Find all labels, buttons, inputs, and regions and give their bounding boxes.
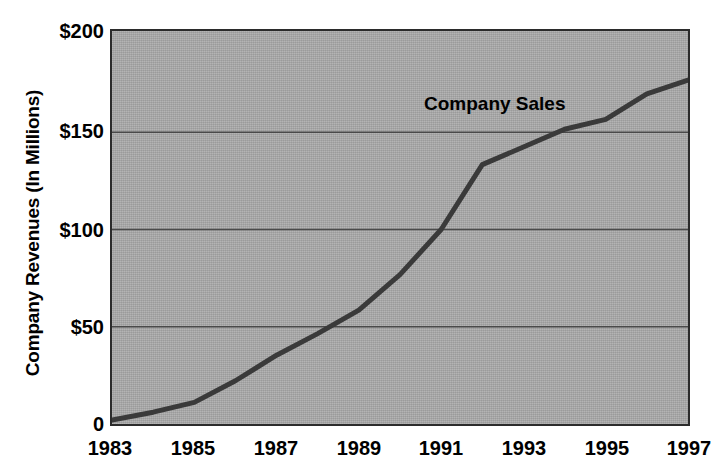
data-series-line <box>112 80 688 420</box>
y-tick-label: $100 <box>26 220 104 240</box>
plot-svg <box>112 31 688 424</box>
series-annotation-label: Company Sales <box>424 93 566 115</box>
line-chart: Company Revenues (In Millions) $200 $150… <box>0 0 716 476</box>
y-tick-label: $150 <box>26 121 104 141</box>
y-tick-label: $200 <box>26 21 104 41</box>
x-tick-label: 1983 <box>75 438 145 458</box>
x-axis-tick-labels: 1983 1985 1987 1989 1991 1993 1995 1997 <box>0 438 716 472</box>
x-tick-label: 1995 <box>572 438 642 458</box>
x-tick-label: 1993 <box>489 438 559 458</box>
x-tick-label: 1991 <box>406 438 476 458</box>
gridlines <box>112 132 688 327</box>
y-tick-label: $50 <box>26 317 104 337</box>
x-tick-label: 1997 <box>654 438 716 458</box>
x-tick-label: 1989 <box>324 438 394 458</box>
y-axis-tick-labels: $200 $150 $100 $50 0 <box>22 0 104 476</box>
y-tick-label: 0 <box>26 414 104 434</box>
x-tick-label: 1985 <box>158 438 228 458</box>
x-tick-label: 1987 <box>241 438 311 458</box>
plot-area <box>110 29 690 426</box>
